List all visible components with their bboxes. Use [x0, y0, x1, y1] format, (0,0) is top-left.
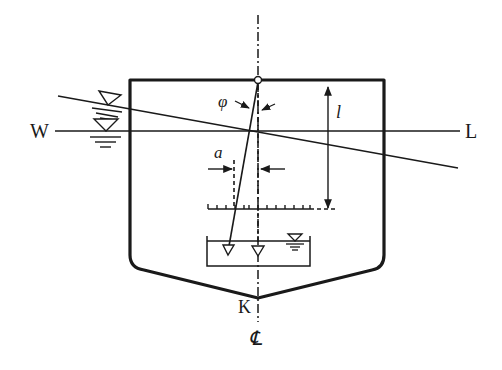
phi-arrow-right — [262, 104, 275, 110]
waterline-right-label: L — [465, 120, 477, 142]
tank-water-level-symbol — [286, 234, 304, 250]
deflection-label: a — [214, 143, 223, 162]
pendulum-length-label: l — [336, 102, 341, 122]
centerline-symbol: ℄ — [249, 327, 263, 349]
waterline-left-label: W — [30, 120, 49, 142]
keel-label: K — [238, 297, 251, 317]
inclining-experiment-diagram: φ a l W L K ℄ — [0, 0, 502, 370]
pendulum-bob-icon — [223, 245, 234, 255]
phi-arrow-left — [235, 101, 249, 108]
upright-water-level-symbol — [90, 119, 121, 147]
inclined-water-level-symbol — [92, 91, 122, 120]
reference-bob-icon — [252, 246, 264, 256]
pendulum-pivot — [255, 77, 262, 84]
graduated-scale — [208, 204, 335, 209]
heel-angle-label: φ — [218, 92, 227, 111]
